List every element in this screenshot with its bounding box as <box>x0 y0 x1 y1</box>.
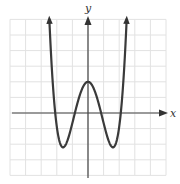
x-axis-arrow-icon <box>159 110 168 117</box>
y-axis-label: y <box>84 2 92 15</box>
quartic-graph: y x <box>0 0 180 184</box>
curve-left-arrow-icon <box>46 16 52 24</box>
x-axis-label: x <box>170 107 177 120</box>
curve-right-arrow-icon <box>123 16 129 24</box>
y-axis-arrow-icon <box>85 16 92 25</box>
